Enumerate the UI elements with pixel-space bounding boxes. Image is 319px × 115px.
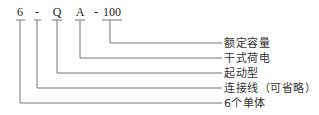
code-type: Q bbox=[53, 5, 62, 20]
battery-model-diagram: 6 - Q A - 100 额定容量 干式荷电 起动型 连接线（可省略） 6个单… bbox=[0, 0, 319, 115]
code-cells: 6 bbox=[17, 5, 23, 20]
label-type: 起动型 bbox=[224, 64, 259, 80]
code-charge: A bbox=[76, 5, 85, 20]
code-dash-2: - bbox=[94, 5, 98, 20]
label-capacity: 额定容量 bbox=[224, 34, 270, 50]
connector-capacity bbox=[110, 20, 222, 43]
code-capacity: 100 bbox=[103, 5, 121, 20]
connector-cells bbox=[20, 20, 222, 103]
connector-charge bbox=[80, 20, 222, 58]
code-dash-1: - bbox=[35, 5, 39, 20]
label-charge: 干式荷电 bbox=[224, 49, 270, 65]
connector-lines bbox=[0, 0, 319, 115]
label-cells: 6个单体 bbox=[224, 94, 266, 110]
connector-type bbox=[57, 20, 222, 73]
label-connector: 连接线（可省略） bbox=[224, 79, 316, 95]
connector-dash bbox=[37, 20, 222, 88]
